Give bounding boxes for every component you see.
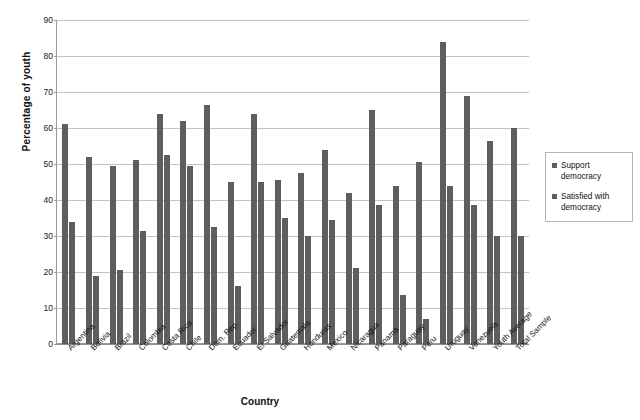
bar <box>133 160 139 344</box>
bar-group <box>110 20 123 344</box>
plot-area: 9080706050403020100 <box>56 20 528 344</box>
bar <box>440 42 446 344</box>
legend-label: Support democracy <box>561 160 627 182</box>
bar <box>110 166 116 344</box>
legend-item-satisfied: Satisfied with democracy <box>552 191 627 213</box>
y-axis-tick-label: 50 <box>27 159 53 169</box>
bar-group <box>62 20 75 344</box>
bar-group <box>393 20 406 344</box>
bar <box>211 227 217 344</box>
legend-label: Satisfied with democracy <box>561 191 627 213</box>
legend-item-support: Support democracy <box>552 160 627 182</box>
legend: Support democracy Satisfied with democra… <box>545 152 633 222</box>
bar <box>511 128 517 344</box>
x-axis-title: Country <box>180 396 340 407</box>
y-axis-title: Percentage of youth <box>21 22 32 182</box>
bar-group <box>275 20 288 344</box>
bar <box>353 268 359 344</box>
bar <box>487 141 493 344</box>
bar-group <box>228 20 241 344</box>
bar <box>298 173 304 344</box>
bar-group <box>487 20 500 344</box>
bar-group <box>298 20 311 344</box>
bar <box>393 186 399 344</box>
legend-swatch-icon <box>552 163 557 168</box>
legend-swatch-icon <box>552 194 557 199</box>
bar <box>164 155 170 344</box>
bar-chart: Percentage of youth 9080706050403020100 … <box>0 0 640 420</box>
bar <box>235 286 241 344</box>
bar-group <box>369 20 382 344</box>
bar <box>69 222 75 344</box>
bar <box>258 182 264 344</box>
bar-group <box>86 20 99 344</box>
bar <box>471 205 477 344</box>
y-axis-tick-label: 20 <box>27 267 53 277</box>
bar-group <box>133 20 146 344</box>
bar <box>157 114 163 344</box>
bar <box>369 110 375 344</box>
bar-group <box>180 20 193 344</box>
bar <box>251 114 257 344</box>
bar <box>140 231 146 344</box>
bar-group <box>204 20 217 344</box>
bar-series-container <box>57 20 529 344</box>
y-axis-tick-label: 90 <box>27 15 53 25</box>
bar-group <box>511 20 524 344</box>
y-axis-tick-label: 80 <box>27 51 53 61</box>
bar <box>86 157 92 344</box>
bar <box>180 121 186 344</box>
gridline <box>57 344 529 345</box>
y-axis-tick-label: 70 <box>27 87 53 97</box>
bar-group <box>322 20 335 344</box>
bar <box>346 193 352 344</box>
bar <box>204 105 210 344</box>
bar <box>187 166 193 344</box>
y-axis-tick-label: 60 <box>27 123 53 133</box>
bar <box>93 276 99 344</box>
bar <box>117 270 123 344</box>
bar <box>322 150 328 344</box>
y-axis-tick-label: 40 <box>27 195 53 205</box>
bar <box>447 186 453 344</box>
bar-group <box>440 20 453 344</box>
y-axis-tick-mark <box>54 344 57 345</box>
bar-group <box>157 20 170 344</box>
bar <box>416 162 422 344</box>
bar <box>62 124 68 344</box>
y-axis-tick-label: 30 <box>27 231 53 241</box>
bar <box>464 96 470 344</box>
bar-group <box>464 20 477 344</box>
y-axis-tick-label: 0 <box>27 339 53 349</box>
bar-group <box>346 20 359 344</box>
y-axis-tick-label: 10 <box>27 303 53 313</box>
bar-group <box>416 20 429 344</box>
bar-group <box>251 20 264 344</box>
